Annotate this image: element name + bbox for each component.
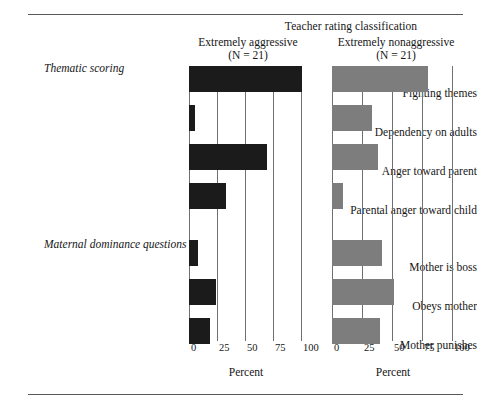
bar-aggressive-parental-anger-toward-child bbox=[189, 183, 226, 209]
tick-right-100: 100 bbox=[454, 342, 470, 354]
column-header-aggressive-n: (N = 21) bbox=[182, 49, 314, 62]
bar-aggressive-obeys-mother bbox=[189, 279, 216, 305]
bottom-rule bbox=[28, 394, 463, 395]
tick-left-50: 50 bbox=[247, 342, 258, 354]
top-rule bbox=[28, 14, 463, 15]
bar-nonaggressive-mother-punishes bbox=[332, 318, 380, 344]
tick-right-50: 50 bbox=[394, 342, 405, 354]
tick-left-100: 100 bbox=[303, 342, 319, 354]
bar-nonaggressive-dependency-on-adults bbox=[332, 105, 372, 131]
bar-aggressive-mother-punishes bbox=[189, 318, 210, 344]
chart-header-title: Teacher rating classification bbox=[228, 20, 474, 32]
tick-left-0: 0 bbox=[191, 342, 196, 354]
bar-aggressive-dependency-on-adults bbox=[189, 105, 195, 131]
x-axis-title-aggressive: Percent bbox=[189, 366, 303, 378]
tick-left-75: 75 bbox=[275, 342, 286, 354]
x-axis-ticks-nonaggressive: 0 25 50 75 100 bbox=[332, 342, 472, 356]
column-header-nonaggressive-title: Extremely nonaggressive bbox=[338, 36, 455, 48]
gridline-right-100 bbox=[452, 66, 453, 341]
x-axis-ticks-aggressive: 0 25 50 75 100 bbox=[189, 342, 319, 356]
gridline-right-75 bbox=[422, 66, 423, 341]
bar-aggressive-anger-toward-parent bbox=[189, 144, 267, 170]
column-header-nonaggressive-n: (N = 21) bbox=[318, 49, 474, 62]
tick-right-0: 0 bbox=[334, 342, 339, 354]
tick-right-25: 25 bbox=[364, 342, 375, 354]
tick-right-75: 75 bbox=[424, 342, 435, 354]
plot-panel-aggressive bbox=[189, 66, 303, 341]
x-axis-title-nonaggressive: Percent bbox=[332, 366, 454, 378]
plot-panel-nonaggressive bbox=[332, 66, 454, 341]
bar-aggressive-fighting-themes bbox=[189, 66, 302, 92]
gridline-left-100 bbox=[301, 66, 302, 341]
column-header-aggressive-title: Extremely aggressive bbox=[198, 36, 297, 48]
tick-left-25: 25 bbox=[219, 342, 230, 354]
bar-nonaggressive-anger-toward-parent bbox=[332, 144, 378, 170]
section-heading-maternal-dominance: Maternal dominance questions bbox=[44, 238, 186, 250]
gridline-left-75 bbox=[273, 66, 274, 341]
bar-aggressive-mother-is-boss bbox=[189, 240, 198, 266]
bar-nonaggressive-fighting-themes bbox=[332, 66, 428, 92]
column-header-nonaggressive: Extremely nonaggressive (N = 21) bbox=[318, 36, 474, 62]
section-heading-thematic-scoring: Thematic scoring bbox=[44, 62, 124, 74]
gridline-left-50 bbox=[245, 66, 246, 341]
bar-nonaggressive-obeys-mother bbox=[332, 279, 394, 305]
bar-nonaggressive-mother-is-boss bbox=[332, 240, 382, 266]
bar-nonaggressive-parental-anger-toward-child bbox=[332, 183, 343, 209]
column-header-aggressive: Extremely aggressive (N = 21) bbox=[182, 36, 314, 62]
